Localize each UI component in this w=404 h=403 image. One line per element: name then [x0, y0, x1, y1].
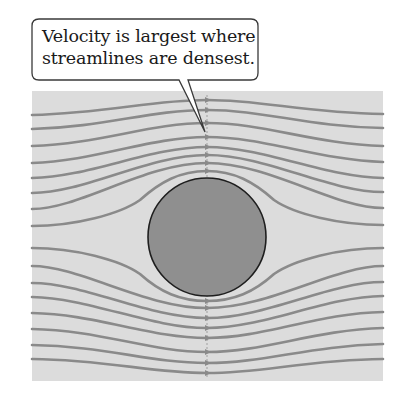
callout-text: Velocity is largest where streamlines ar… — [32, 19, 258, 80]
streamline-diagram: Velocity is largest where streamlines ar… — [0, 0, 404, 403]
callout-line-2: streamlines are densest. — [42, 47, 250, 69]
callout-line-1: Velocity is largest where — [42, 25, 250, 47]
obstacle-circle — [148, 178, 266, 296]
